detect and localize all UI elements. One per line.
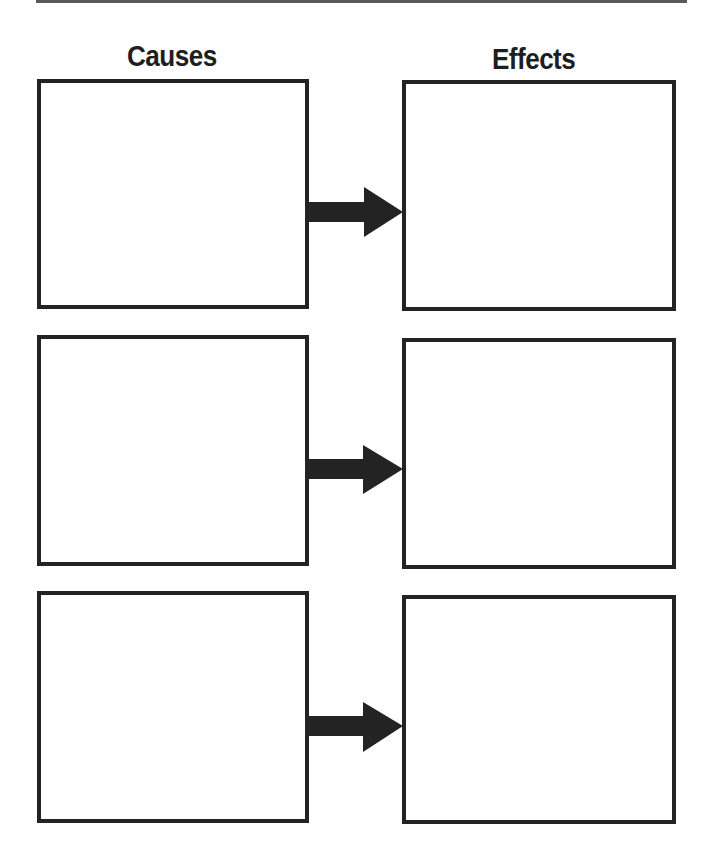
right-arrow-icon bbox=[306, 445, 404, 495]
cause-box-3[interactable] bbox=[37, 591, 309, 823]
effect-box-3[interactable] bbox=[402, 595, 676, 824]
effects-heading: Effects bbox=[492, 45, 575, 74]
cause-box-1[interactable] bbox=[37, 79, 309, 309]
effect-box-1[interactable] bbox=[402, 80, 676, 311]
right-arrow-icon bbox=[306, 702, 404, 752]
causes-heading: Causes bbox=[127, 42, 217, 71]
effect-box-2[interactable] bbox=[402, 338, 676, 569]
cause-box-2[interactable] bbox=[37, 335, 309, 566]
right-arrow-icon bbox=[306, 187, 404, 237]
top-divider-rule bbox=[36, 0, 687, 3]
